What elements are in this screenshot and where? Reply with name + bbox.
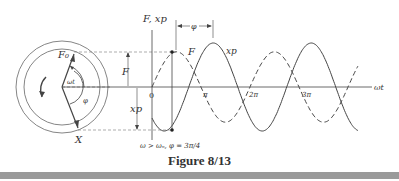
bottom-rule <box>0 172 399 179</box>
F0-label: F₀ <box>57 49 69 60</box>
rotation-arrowhead-icon <box>39 91 45 97</box>
wt-label: ωt <box>67 78 75 86</box>
force-arrowhead-icon <box>70 54 75 62</box>
displacement-arrowhead-icon <box>74 120 79 128</box>
y-axis-label: F, xp <box>142 13 167 24</box>
xp-point <box>170 128 174 132</box>
X-label: X <box>74 134 83 145</box>
phi-dim-arrow-left-icon <box>177 24 182 28</box>
F-dim-label: F <box>121 66 130 77</box>
condition-label: ω > ωₙ, φ = 3π/4 <box>140 142 200 150</box>
tick-pi: π <box>202 91 208 99</box>
F-point <box>170 50 174 54</box>
xp-curve-label: xp <box>226 46 237 56</box>
x-axis-label: ωt <box>374 83 385 92</box>
F-dim-arrow-icon <box>126 52 130 57</box>
phi-label: φ <box>83 97 88 105</box>
F-curve-label: F <box>187 46 196 57</box>
xp-dim-arrow-icon <box>135 125 139 130</box>
tick-3pi: 3π <box>302 91 311 99</box>
xp-dim-label: xp <box>130 103 143 114</box>
figure-8-13: F₀ X ωt φ F xp φ F, xp ωt <box>0 0 399 181</box>
phasor-diagram: F₀ X ωt φ <box>16 41 110 145</box>
phi-dim-arrow-right-icon <box>207 24 212 28</box>
origin-label: 0 <box>149 91 154 100</box>
figure-caption: Figure 8/13 <box>0 153 399 169</box>
phi-dim-label: φ <box>191 22 197 31</box>
tick-2pi: 2π <box>248 91 258 99</box>
